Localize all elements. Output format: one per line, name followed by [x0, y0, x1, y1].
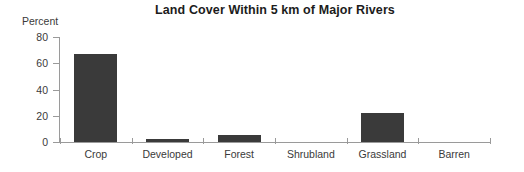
y-tick-label: 0 [0, 136, 48, 148]
y-tick-label: 80 [0, 31, 48, 43]
x-tick-label: Grassland [359, 148, 407, 160]
y-tick-mark [53, 63, 60, 64]
y-tick-label: 60 [0, 57, 48, 69]
x-tick-label: Barren [438, 148, 470, 160]
x-tick-label: Shrubland [287, 148, 335, 160]
plot-area [60, 37, 490, 142]
bar [146, 139, 189, 142]
y-tick-mark [53, 116, 60, 117]
x-tick-label: Crop [84, 148, 107, 160]
bar [361, 113, 404, 142]
y-tick-label: 40 [0, 84, 48, 96]
x-tick-label: Developed [142, 148, 192, 160]
chart-title: Land Cover Within 5 km of Major Rivers [60, 3, 490, 17]
bar-chart: Land Cover Within 5 km of Major Rivers P… [0, 0, 524, 172]
y-axis-title: Percent [22, 15, 58, 27]
y-tick-label: 20 [0, 110, 48, 122]
x-tick-label: Forest [224, 148, 254, 160]
y-tick-mark [53, 37, 60, 38]
y-tick-mark [53, 142, 60, 143]
bar [74, 54, 117, 142]
x-tick-mark [490, 138, 491, 144]
bar [218, 135, 261, 142]
y-tick-mark [53, 90, 60, 91]
